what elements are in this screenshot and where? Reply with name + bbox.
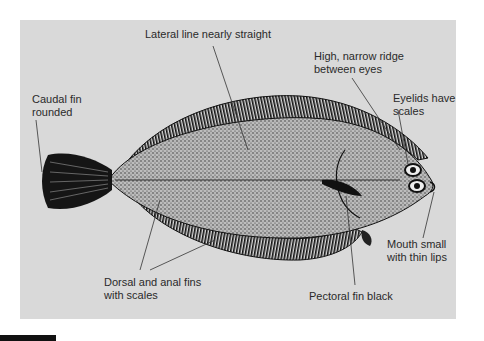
fish-illustration [0,0,484,341]
label-pectoral-fin: Pectoral fin black [309,290,393,303]
label-dorsal-anal-fins: Dorsal and anal fins with scales [104,276,201,302]
label-lateral-line: Lateral line nearly straight [145,28,271,41]
label-eyelids: Eyelids have scales [393,92,455,118]
label-mouth: Mouth small with thin lips [387,238,447,264]
label-ridge: High, narrow ridge between eyes [314,50,404,76]
leader-mouth [423,192,434,238]
label-caudal-fin: Caudal fin rounded [32,93,82,119]
leader-anal [150,240,215,270]
leader-caudal [36,120,42,172]
